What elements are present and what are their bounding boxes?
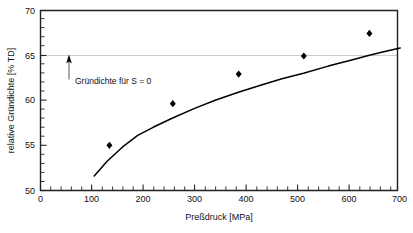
chart-plot: 0 100 200 300 400 500 600 700 50 55 60 6…: [0, 0, 413, 233]
x-tick-label: 700: [392, 194, 407, 204]
y-tick-label: 50: [25, 186, 35, 196]
annotation-label: Gründichte für S = 0: [75, 76, 152, 86]
x-tick-label: 500: [290, 194, 305, 204]
y-tick-label: 60: [25, 95, 35, 105]
y-tick-label: 55: [25, 140, 35, 150]
x-tick-label: 0: [38, 194, 43, 204]
y-tick-label: 65: [25, 51, 35, 61]
x-tick-label: 200: [136, 194, 151, 204]
x-tick-label: 600: [342, 194, 357, 204]
x-axis-title: Preßdruck [MPa]: [185, 212, 253, 222]
x-tick-label: 100: [84, 194, 99, 204]
y-tick-label: 70: [25, 6, 35, 16]
chart-container: 0 100 200 300 400 500 600 700 50 55 60 6…: [0, 0, 413, 233]
x-tick-label: 300: [187, 194, 202, 204]
x-tick-label: 400: [239, 194, 254, 204]
y-axis-title: relative Gründichte [% TD]: [6, 48, 16, 153]
